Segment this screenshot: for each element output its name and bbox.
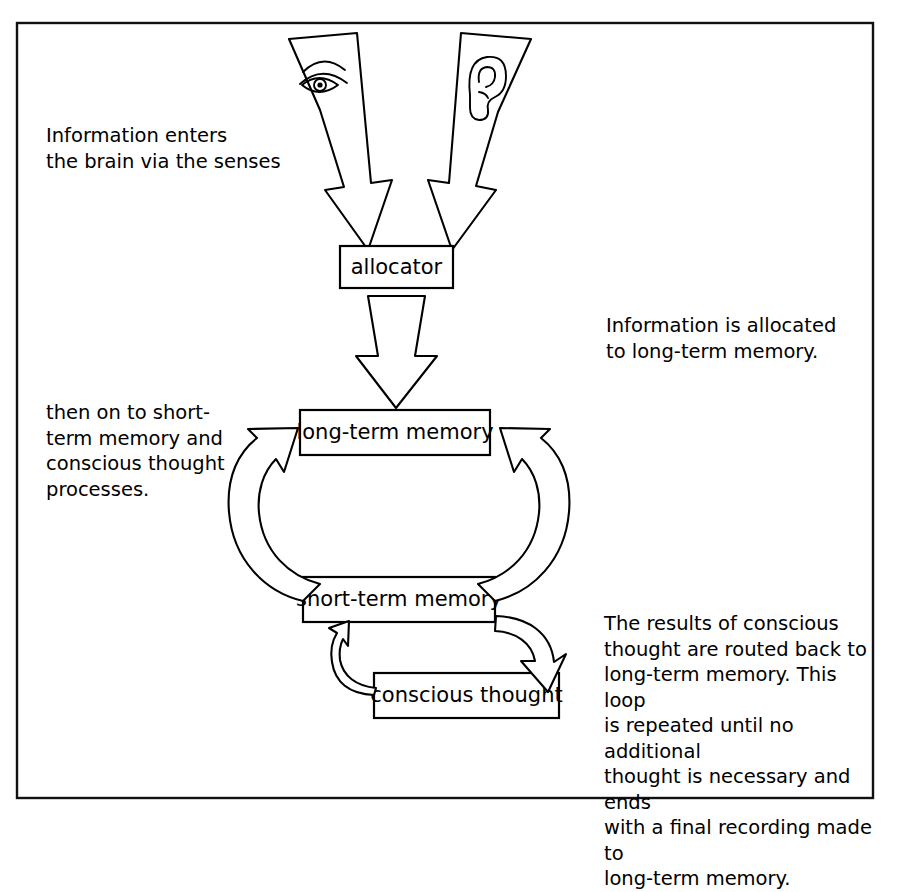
node-long-term-memory-label: long-term memory xyxy=(296,420,493,444)
caption-loop: The results of conscious thought are rou… xyxy=(604,611,879,892)
node-conscious-thought-label: conscious thought xyxy=(370,683,562,707)
caption-allocated: Information is allocated to long-term me… xyxy=(606,313,866,364)
flow-conscious-thought-to-short-term xyxy=(329,621,376,695)
flow-allocator-to-long-term xyxy=(356,296,437,408)
caption-short-term: then on to short- term memory and consci… xyxy=(46,400,261,502)
flow-ear-to-allocator xyxy=(428,33,531,250)
flow-eye-to-allocator xyxy=(289,33,392,250)
caption-senses: Information enters the brain via the sen… xyxy=(46,123,296,174)
node-short-term-memory-label: short-term memory xyxy=(296,587,502,611)
flow-short-term-to-long-term-right xyxy=(478,428,569,601)
node-allocator-label: allocator xyxy=(351,255,443,279)
